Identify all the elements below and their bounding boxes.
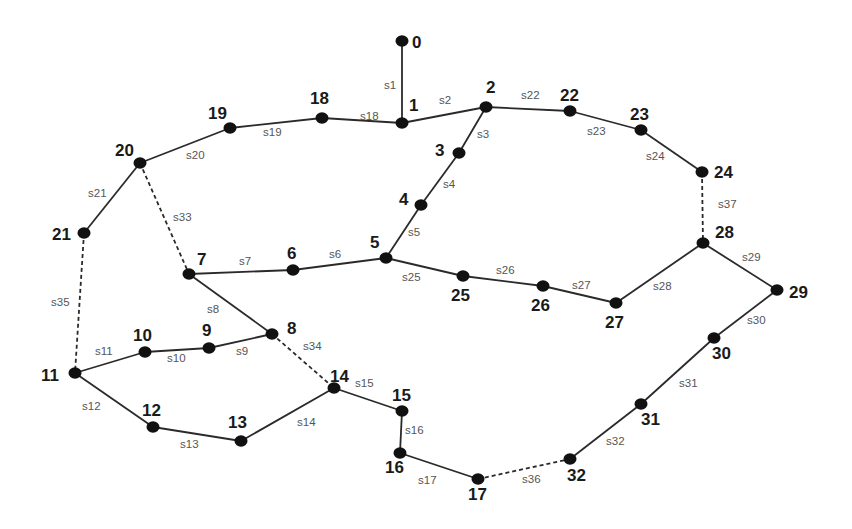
edge-label: s17 (418, 474, 437, 486)
edge-label: s27 (572, 279, 591, 291)
node-label: 14 (330, 367, 349, 386)
node-label: 2 (486, 78, 495, 97)
edges-layer (75, 41, 777, 479)
node-label: 12 (142, 401, 161, 420)
node-label: 0 (412, 33, 421, 52)
edge-label: s11 (95, 345, 113, 357)
node-22 (564, 105, 577, 117)
node-25 (457, 270, 470, 282)
node-label: 8 (287, 319, 296, 338)
network-diagram: s1s2s3s4s5s6s7s8s9s10s11s12s13s14s15s16s… (0, 0, 852, 529)
node-label: 11 (41, 366, 59, 385)
edge-s17 (400, 453, 478, 479)
edge-s22 (486, 107, 570, 111)
nodes-layer (69, 35, 784, 485)
edge-label: s32 (606, 435, 625, 447)
node-label: 21 (52, 225, 71, 244)
node-23 (635, 124, 648, 136)
node-10 (139, 346, 152, 358)
node-label: 16 (385, 458, 404, 477)
node-13 (235, 435, 248, 447)
node-5 (380, 252, 393, 264)
node-2 (480, 101, 493, 113)
node-labels-layer: 0123456789101112131415161718192021222324… (41, 33, 808, 504)
edge-label: s3 (477, 128, 489, 140)
edge-label: s36 (522, 473, 541, 485)
node-label: 10 (133, 326, 152, 345)
node-label: 28 (715, 223, 734, 242)
edge-label: s23 (587, 125, 606, 137)
edge-label: s21 (88, 187, 107, 199)
edge-s14 (241, 388, 334, 441)
node-label: 7 (197, 250, 206, 269)
node-label: 18 (310, 89, 329, 108)
node-label: 17 (468, 485, 487, 504)
edge-s25 (386, 258, 463, 276)
edge-label: s26 (496, 264, 515, 276)
node-9 (203, 342, 216, 354)
node-27 (610, 297, 623, 309)
node-30 (708, 332, 721, 344)
node-7 (183, 268, 196, 280)
edge-label: s13 (180, 438, 199, 450)
edge-s31 (641, 338, 714, 404)
node-label: 24 (714, 163, 733, 182)
edge-s7 (189, 270, 293, 274)
edge-label: s35 (51, 296, 70, 308)
node-label: 25 (451, 286, 470, 305)
node-label: 5 (370, 233, 379, 252)
edge-label: s24 (646, 150, 665, 162)
edge-s29 (703, 243, 777, 290)
network-graph-svg: s1s2s3s4s5s6s7s8s9s10s11s12s13s14s15s16s… (0, 0, 852, 529)
node-label: 19 (208, 104, 227, 123)
node-label: 27 (605, 313, 624, 332)
node-28 (697, 237, 710, 249)
edge-label: s10 (167, 352, 186, 364)
node-11 (69, 367, 82, 379)
edge-label: s25 (402, 271, 421, 283)
edge-s28 (616, 243, 703, 303)
edge-label: s20 (186, 149, 205, 161)
node-15 (396, 405, 409, 417)
node-21 (78, 227, 91, 239)
node-4 (415, 199, 428, 211)
node-label: 26 (531, 296, 550, 315)
node-32 (564, 453, 577, 465)
edge-s30 (714, 290, 777, 338)
node-label: 32 (567, 466, 586, 485)
node-3 (453, 147, 466, 159)
edge-label: s34 (303, 340, 322, 352)
node-label: 31 (641, 410, 660, 429)
edge-s20 (140, 128, 230, 163)
edge-label: s1 (384, 79, 396, 91)
node-31 (635, 398, 648, 410)
node-label: 15 (392, 386, 411, 405)
edge-label: s37 (718, 198, 737, 210)
node-label: 6 (287, 244, 296, 263)
node-1 (396, 117, 409, 129)
edge-label: s15 (355, 377, 374, 389)
node-label: 13 (228, 413, 247, 432)
node-24 (696, 166, 709, 178)
edge-label: s19 (263, 126, 282, 138)
edge-label: s12 (82, 400, 101, 412)
node-26 (537, 280, 550, 292)
node-label: 23 (630, 105, 649, 124)
edge-label: s5 (408, 226, 420, 238)
node-29 (771, 284, 784, 296)
edge-label: s8 (207, 303, 219, 315)
edge-label: s31 (679, 377, 698, 389)
edge-label: s16 (405, 424, 424, 436)
node-label: 9 (202, 321, 211, 340)
edge-label: s28 (653, 280, 672, 292)
edge-label: s14 (297, 416, 316, 428)
edge-label: s7 (239, 255, 251, 267)
edge-s35-tie-switch (75, 233, 84, 373)
node-18 (316, 112, 329, 124)
node-label: 30 (712, 344, 731, 363)
node-0 (396, 35, 409, 47)
node-6 (287, 264, 300, 276)
node-label: 20 (115, 141, 134, 160)
node-label: 29 (789, 283, 808, 302)
edge-label: s33 (173, 211, 192, 223)
